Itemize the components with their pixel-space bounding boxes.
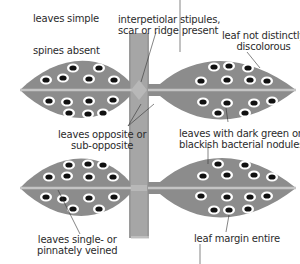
label-opposite-line2: sub-opposite <box>58 140 146 151</box>
label-veined: leaves single- or pinnately veined <box>37 234 117 256</box>
label-spines-absent: spines absent <box>33 45 100 56</box>
label-interpetiolar-line1: interpetiolar stipules, <box>118 14 220 25</box>
label-nodules-line2: blackish bacterial nodules <box>179 139 300 150</box>
leaf-diagram: leaves simple spines absent interpetiola… <box>0 0 300 264</box>
label-interpetiolar-line2: scar or ridge present <box>118 25 220 36</box>
label-veined-line1: leaves single- or <box>37 234 117 245</box>
label-opposite: leaves opposite or sub-opposite <box>58 129 146 151</box>
label-opposite-line1: leaves opposite or <box>58 129 146 140</box>
leaf-upper-right <box>148 61 296 119</box>
label-veined-line2: pinnately veined <box>37 245 117 256</box>
label-bacterial-nodules: leaves with dark green or blackish bacte… <box>179 128 300 150</box>
leaf-upper-left <box>20 61 132 119</box>
label-interpetiolar-stipules: interpetiolar stipules, scar or ridge pr… <box>118 14 220 36</box>
label-discolorous-line1: leaf not distinctly <box>222 30 300 41</box>
label-discolorous-line2: discolorous <box>222 41 300 52</box>
leaf-lower-left <box>20 159 132 216</box>
leaf-lower-right <box>148 158 296 217</box>
label-leaves-simple: leaves simple <box>33 13 99 24</box>
label-not-discolorous: leaf not distinctly discolorous <box>222 30 300 52</box>
stipule-lower <box>131 185 147 191</box>
label-margin-entire: leaf margin entire <box>194 233 280 244</box>
label-nodules-line1: leaves with dark green or <box>179 128 300 139</box>
